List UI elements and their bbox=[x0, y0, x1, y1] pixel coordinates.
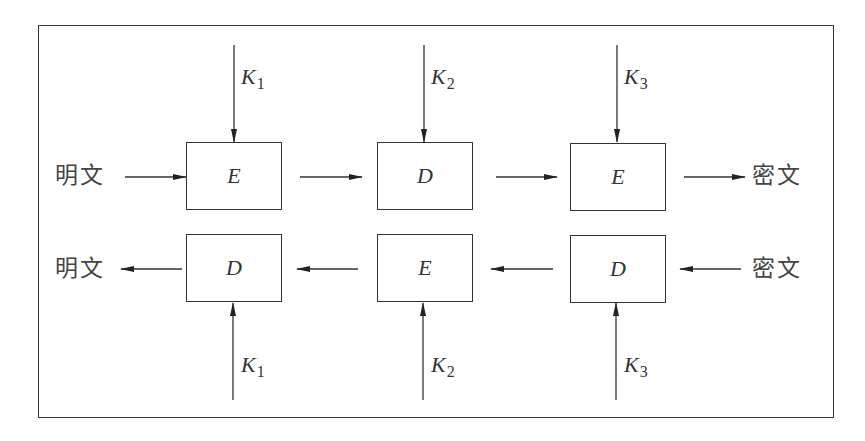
plaintext-input-label: 明文 bbox=[55, 164, 105, 187]
key-label-top-3: K3 bbox=[624, 66, 648, 92]
key-label-bottom-3: K3 bbox=[624, 354, 648, 380]
stage-op: D bbox=[226, 255, 242, 281]
ciphertext-input-label: 密文 bbox=[752, 257, 802, 280]
ciphertext-output-label: 密文 bbox=[752, 164, 802, 187]
stage-op: D bbox=[610, 256, 626, 282]
stage-op: E bbox=[611, 164, 624, 190]
encrypt-stage-2-box: D bbox=[377, 142, 473, 210]
key-label-bottom-2: K2 bbox=[431, 354, 455, 380]
decrypt-stage-1-box: D bbox=[186, 234, 282, 302]
key-label-bottom-1: K1 bbox=[241, 354, 265, 380]
encrypt-stage-1-box: E bbox=[186, 142, 282, 210]
decrypt-stage-2-box: E bbox=[377, 234, 473, 302]
stage-op: D bbox=[417, 163, 433, 189]
key-label-top-2: K2 bbox=[431, 66, 455, 92]
key-label-top-1: K1 bbox=[241, 66, 265, 92]
stage-op: E bbox=[418, 255, 431, 281]
stage-op: E bbox=[227, 163, 240, 189]
encrypt-stage-3-box: E bbox=[570, 143, 666, 211]
decrypt-stage-3-box: D bbox=[570, 235, 666, 303]
plaintext-output-label: 明文 bbox=[55, 257, 105, 280]
